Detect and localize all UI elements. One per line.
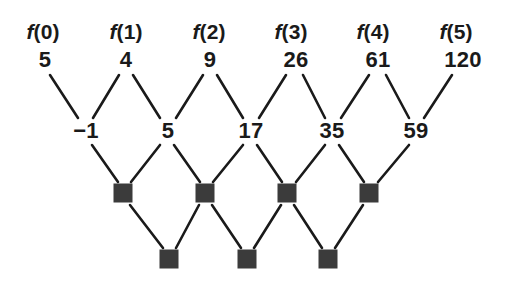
function-argument: (4)	[364, 20, 390, 43]
connector-line	[176, 205, 199, 248]
value-row0-1: 4	[120, 49, 132, 71]
f-label-5: f(5)	[439, 21, 472, 42]
function-argument: (1)	[117, 20, 143, 43]
connector-line	[424, 75, 452, 118]
connector-line	[378, 145, 409, 182]
value-row0-4: 61	[366, 49, 391, 71]
value-row1-4: 59	[404, 120, 429, 142]
blank-box-row2-2[interactable]	[278, 184, 297, 203]
difference-table-figure: f(0)f(1)f(2)f(3)f(4)f(5)5492661120−15173…	[0, 0, 516, 286]
blank-box-row2-0[interactable]	[114, 184, 133, 203]
value-row0-3: 26	[284, 49, 309, 71]
value-row1-3: 35	[320, 120, 345, 142]
connector-line	[335, 205, 363, 248]
connector-line	[303, 75, 325, 118]
blank-box-row3-0[interactable]	[160, 250, 179, 269]
function-argument: (5)	[447, 20, 473, 43]
value-row0-5: 120	[444, 49, 481, 71]
connector-line	[50, 75, 78, 118]
connector-line	[341, 75, 369, 118]
value-row0-0: 5	[39, 49, 51, 71]
function-argument: (2)	[200, 20, 226, 43]
blank-box-row2-3[interactable]	[360, 184, 379, 203]
edge-layer	[0, 0, 516, 286]
blank-box-row3-2[interactable]	[319, 250, 338, 269]
value-row1-0: −1	[73, 120, 98, 142]
connector-line	[92, 145, 118, 182]
connector-line	[217, 75, 243, 118]
connector-line	[174, 145, 200, 182]
connector-line	[294, 205, 322, 248]
f-label-2: f(2)	[192, 21, 225, 42]
connector-line	[259, 75, 286, 118]
value-row1-1: 5	[162, 120, 174, 142]
connector-line	[93, 75, 119, 118]
value-row0-2: 9	[204, 49, 216, 71]
function-argument: (3)	[282, 20, 308, 43]
f-label-3: f(3)	[274, 21, 307, 42]
connector-line	[296, 145, 325, 182]
connector-line	[213, 145, 243, 182]
function-argument: (0)	[34, 20, 60, 43]
connector-line	[131, 145, 160, 182]
connector-line	[254, 205, 281, 248]
f-label-0: f(0)	[26, 21, 59, 42]
f-label-4: f(4)	[356, 21, 389, 42]
blank-box-row2-1[interactable]	[196, 184, 215, 203]
f-label-1: f(1)	[109, 21, 142, 42]
connector-line	[212, 205, 241, 248]
blank-box-row3-1[interactable]	[238, 250, 257, 269]
connector-line	[176, 75, 203, 118]
connector-line	[386, 75, 409, 118]
connector-line	[133, 75, 160, 118]
connector-line	[130, 205, 163, 248]
connector-line	[339, 145, 364, 182]
connector-line	[257, 145, 282, 182]
value-row1-2: 17	[239, 120, 264, 142]
